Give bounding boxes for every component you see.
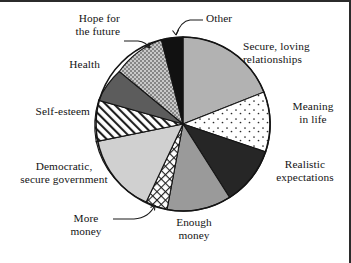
pie-label-health: Health <box>22 58 100 71</box>
pie-label-secure-loving-relationships: Secure, loving relationships <box>243 40 348 65</box>
pie-label-self-esteem: Self-esteem <box>8 105 90 118</box>
pie-label-meaning-in-life: Meaning in life <box>278 100 348 125</box>
pie-label-other: Other <box>206 12 266 25</box>
pie-chart-figure: Hope for the future Other Secure, loving… <box>0 0 351 263</box>
leader-arrow-other <box>173 30 179 35</box>
leader-line-more-money <box>113 205 155 219</box>
pie-label-democratic-secure-government: Democratic, secure government <box>5 160 123 185</box>
pie-label-enough-money: Enough money <box>157 216 231 241</box>
leader-line-other <box>176 20 203 35</box>
pie-label-realistic-expectations: Realistic expectations <box>259 158 351 183</box>
pie-label-hope-for-the-future: Hope for the future <box>20 12 120 37</box>
pie-label-more-money: More money <box>58 212 114 237</box>
figure-top-border <box>0 0 351 2</box>
